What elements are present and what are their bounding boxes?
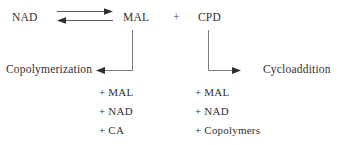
left-branch-arrow: [96, 30, 133, 74]
reactant-mal: MAL: [123, 12, 149, 24]
left-product-item: + MAL: [99, 87, 133, 98]
right-product-item: + NAD: [195, 106, 229, 117]
reactant-cpd: CPD: [198, 12, 221, 24]
reaction-scheme-diagram: NAD MAL + CPD Copolymerization Cycloaddi…: [0, 0, 339, 145]
right-product-item: + MAL: [195, 87, 229, 98]
left-product-item: + CA: [99, 125, 124, 136]
left-product-item: + NAD: [99, 106, 133, 117]
equilibrium-forward-arrow: [57, 8, 113, 14]
right-product-item: + Copolymers: [195, 125, 260, 136]
branch-label-cycloaddition: Cycloaddition: [263, 64, 331, 76]
equilibrium-reverse-arrow: [57, 17, 113, 23]
branch-label-copolymerization: Copolymerization: [6, 64, 92, 76]
plus-sign: +: [173, 12, 180, 24]
reactant-nad: NAD: [12, 12, 38, 24]
right-branch-arrow: [209, 30, 242, 74]
